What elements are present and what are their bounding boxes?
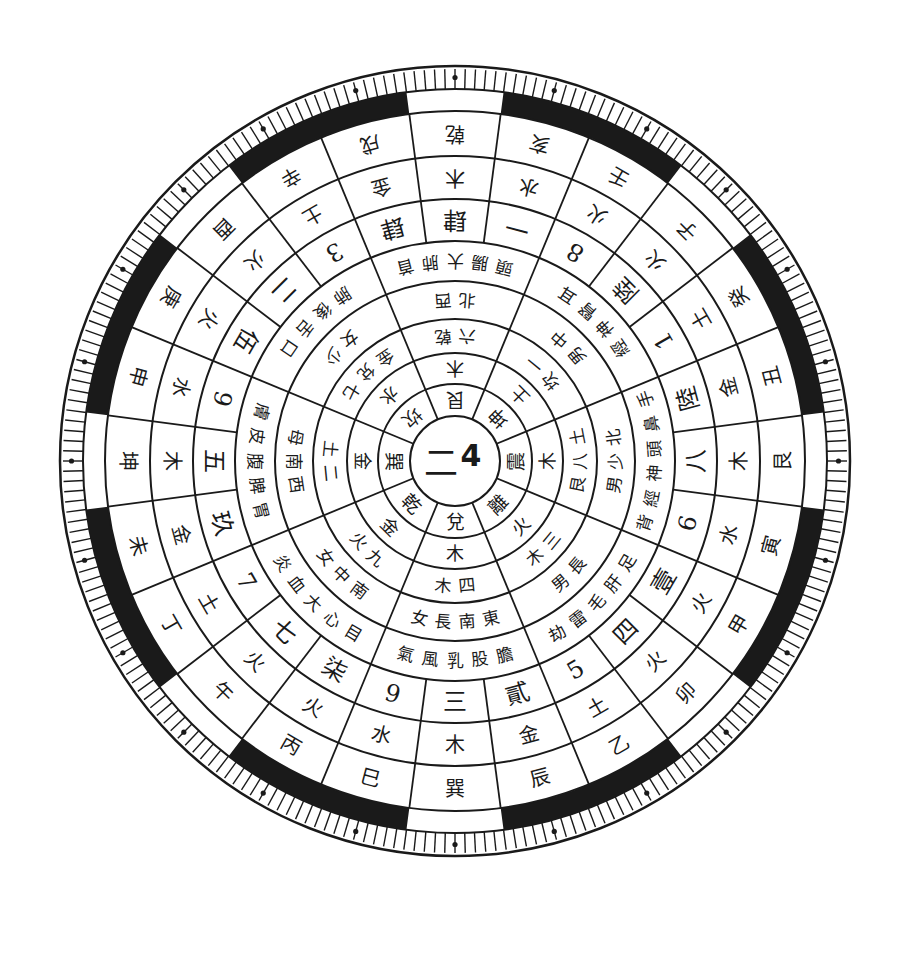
sector-line-24	[409, 114, 426, 243]
number-label: 三	[443, 688, 467, 716]
degree-tick	[704, 170, 717, 185]
direction-label: 三	[538, 528, 564, 554]
degree-tick	[216, 150, 228, 166]
degree-tick	[812, 350, 831, 356]
degree-tick	[268, 788, 278, 806]
body-part-label: 舌	[292, 316, 318, 342]
body-part-label: 口	[277, 336, 303, 361]
family-label: 母	[285, 427, 307, 447]
element-label: 火	[685, 588, 716, 617]
mountain-label: 卯	[671, 677, 702, 708]
body-part-label: 肺	[420, 252, 439, 274]
degree-tick	[597, 99, 605, 117]
degree-tick	[65, 500, 85, 502]
direction-label: 金	[372, 344, 397, 370]
number-label: 9	[207, 388, 238, 410]
degree-tick	[826, 440, 846, 441]
rim-dot	[120, 267, 125, 272]
degree-tick	[542, 80, 547, 99]
hub-char: 二	[424, 443, 458, 483]
degree-tick	[767, 664, 784, 675]
body-part-label: 氣	[395, 643, 416, 667]
degree-tick	[65, 420, 85, 422]
degree-tick	[744, 695, 760, 708]
element-inner-label: 金	[352, 452, 373, 470]
degree-tick	[762, 239, 778, 250]
degree-tick	[826, 490, 846, 492]
degree-tick	[82, 340, 101, 346]
family-label: 少	[320, 343, 346, 369]
degree-tick	[296, 103, 304, 121]
direction-label: 一	[522, 351, 548, 377]
degree-tick	[64, 490, 84, 492]
family-label: 北	[458, 290, 476, 311]
degree-tick	[64, 430, 84, 432]
family-label: 中	[328, 562, 354, 588]
body-part-label: 膚	[249, 401, 273, 422]
mountain-label: 亥	[527, 130, 553, 158]
degree-tick	[494, 831, 496, 851]
degree-tick	[791, 292, 809, 301]
degree-tick	[268, 117, 278, 135]
degree-tick	[795, 302, 813, 310]
body-part-label: 後	[310, 298, 336, 324]
degree-tick	[762, 672, 778, 683]
degree-tick	[809, 576, 828, 582]
degree-tick	[193, 170, 206, 185]
degree-tick	[806, 585, 825, 592]
degree-tick	[827, 471, 847, 472]
sector-line-24	[409, 679, 426, 808]
degree-tick	[674, 144, 686, 160]
body-part-label: 脾	[246, 476, 268, 495]
degree-tick	[185, 177, 199, 192]
degree-tick	[384, 76, 388, 96]
family-label: 男	[564, 343, 590, 369]
body-part-label: 頭	[644, 439, 665, 457]
degree-tick	[394, 74, 397, 94]
degree-tick	[74, 369, 93, 374]
degree-tick	[126, 664, 143, 675]
degree-tick	[225, 762, 237, 778]
rim-dot	[261, 791, 266, 796]
degree-tick	[606, 801, 614, 819]
direction-label: 坎	[538, 369, 564, 395]
mountain-label: 未	[124, 533, 152, 559]
degree-tick	[111, 274, 129, 284]
degree-tick	[424, 832, 426, 852]
degree-tick	[193, 737, 206, 752]
degree-tick	[97, 302, 115, 310]
element-inner-label: 水	[376, 382, 404, 410]
sector-line-24	[484, 679, 501, 808]
degree-tick	[79, 567, 98, 573]
degree-tick	[738, 206, 753, 219]
number-label: 柒	[317, 652, 352, 688]
body-part-label: 神	[644, 464, 665, 482]
degree-tick	[404, 830, 407, 850]
degree-tick	[674, 762, 686, 778]
direction-label: 土	[566, 427, 589, 448]
degree-tick	[434, 832, 435, 852]
degree-tick	[484, 832, 486, 852]
number-label: 八	[682, 449, 710, 473]
body-part-label: 雷	[565, 606, 591, 632]
degree-tick	[465, 69, 466, 89]
direction-label: 四	[458, 575, 477, 597]
body-part-label: 心	[320, 606, 346, 632]
trigram-label: 乾	[397, 490, 426, 519]
direction-label: 木	[522, 544, 548, 570]
degree-tick	[233, 768, 244, 784]
degree-tick	[494, 71, 496, 91]
mountain-label: 乾	[445, 122, 465, 146]
degree-tick	[725, 717, 740, 731]
number-label: 5	[562, 654, 589, 686]
degree-tick	[817, 548, 836, 553]
sector-line-24	[673, 490, 802, 507]
degree-tick	[799, 311, 817, 319]
degree-tick	[70, 529, 90, 533]
degree-tick	[305, 99, 313, 117]
degree-tick	[82, 576, 101, 582]
degree-tick	[66, 410, 86, 413]
mountain-label: 艮	[771, 451, 795, 471]
degree-tick	[786, 283, 804, 292]
degree-tick	[434, 70, 435, 90]
